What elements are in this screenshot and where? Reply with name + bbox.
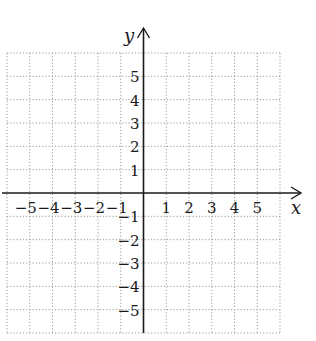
x-tick-label: −5	[15, 199, 37, 217]
y-tick-label: 4	[130, 92, 140, 110]
y-tick-label: 1	[130, 162, 140, 180]
x-tick-label: 3	[207, 199, 217, 217]
x-tick-label: 2	[184, 199, 194, 217]
axes	[2, 28, 301, 333]
y-tick-label: 3	[130, 115, 140, 133]
coordinate-plane: −5−4−3−2−11234554321−1−2−3−4−5 x y	[0, 0, 316, 341]
y-tick-label: 2	[130, 138, 140, 156]
y-tick-label: −2	[117, 232, 139, 250]
x-tick-label: −3	[60, 199, 82, 217]
x-axis-label: x	[291, 197, 301, 218]
y-tick-label: −4	[117, 278, 139, 296]
y-tick-label: −1	[117, 208, 139, 226]
y-tick-label: −3	[117, 255, 139, 273]
x-tick-label: −4	[37, 199, 59, 217]
x-tick-label: 4	[230, 199, 240, 217]
x-tick-label: −2	[83, 199, 105, 217]
y-tick-label: 5	[130, 68, 140, 86]
x-tick-label: 1	[161, 199, 171, 217]
x-tick-label: 5	[252, 199, 262, 217]
tick-labels: −5−4−3−2−11234554321−1−2−3−4−5	[15, 68, 262, 319]
y-tick-label: −5	[117, 302, 139, 320]
y-axis-label: y	[123, 25, 135, 46]
